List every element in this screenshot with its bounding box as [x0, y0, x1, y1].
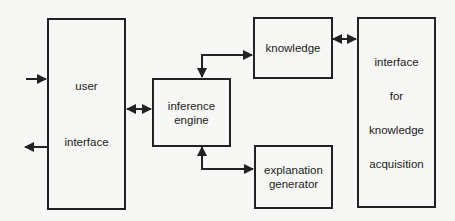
acquisition-label-line3: knowledge — [369, 123, 424, 137]
inference-engine-box: inference engine — [152, 78, 231, 147]
user-interface-box: user interface — [47, 18, 126, 210]
explanation-generator-label-line1: explanation — [264, 163, 323, 177]
knowledge-acquisition-interface-box: interface for knowledge acquisition — [357, 17, 436, 208]
diagram-canvas: user interface inference engine knowledg… — [0, 0, 455, 221]
knowledge-label: knowledge — [266, 41, 321, 55]
acquisition-label-line4: acquisition — [369, 157, 423, 171]
acquisition-label-line1: interface — [374, 55, 418, 69]
knowledge-box: knowledge — [253, 17, 333, 79]
inference-engine-label-line2: engine — [174, 113, 209, 127]
inference-knowledge-arrow — [202, 55, 252, 77]
inference-explanation-arrow — [202, 147, 253, 169]
inference-engine-label-line1: inference — [168, 99, 215, 113]
acquisition-label-line2: for — [390, 89, 403, 103]
user-interface-label-line1: user — [75, 79, 97, 93]
user-interface-label-line2: interface — [64, 135, 108, 149]
explanation-generator-label-line2: generator — [269, 177, 318, 191]
explanation-generator-box: explanation generator — [254, 145, 333, 209]
